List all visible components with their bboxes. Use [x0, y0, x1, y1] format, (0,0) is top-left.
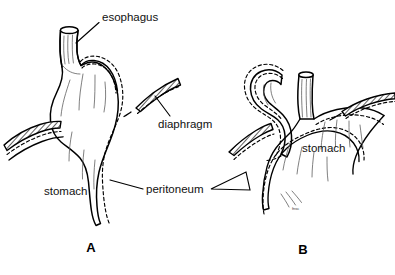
stomach-label-left: stomach [44, 185, 87, 197]
panel-a-esophagus-lumen [60, 27, 78, 34]
diaphragm-label: diaphragm [158, 118, 212, 130]
panel-b-esophagus-lumen [299, 72, 313, 78]
anatomy-illustration: A [0, 0, 395, 275]
panel-a-letter: A [86, 240, 96, 255]
anatomy-figure: A [0, 0, 395, 275]
peritoneum-label: peritoneum [146, 183, 204, 195]
esophagus-label: esophagus [102, 11, 159, 23]
stomach-label-right: stomach [302, 142, 345, 154]
panel-b-letter: B [298, 242, 307, 257]
illustrator-signature: fnsc [292, 206, 299, 211]
